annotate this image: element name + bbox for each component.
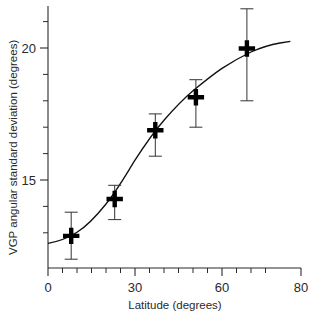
x-axis-title: Latitude (degrees) — [128, 299, 222, 311]
x-tick-label-0: 0 — [44, 280, 51, 295]
chart-figure: 20 15 VGP angular standard deviation (de… — [0, 0, 315, 313]
y-axis-title: VGP angular standard deviation (degrees) — [7, 40, 19, 255]
y-tick-label-20: 20 — [22, 41, 36, 56]
x-tick-label-60: 60 — [215, 280, 229, 295]
scatter-plot: 20 15 VGP angular standard deviation (de… — [0, 0, 315, 313]
y-tick-label-15: 15 — [22, 173, 36, 188]
x-tick-label-30: 30 — [128, 280, 142, 295]
x-tick-label-80: 80 — [294, 280, 308, 295]
